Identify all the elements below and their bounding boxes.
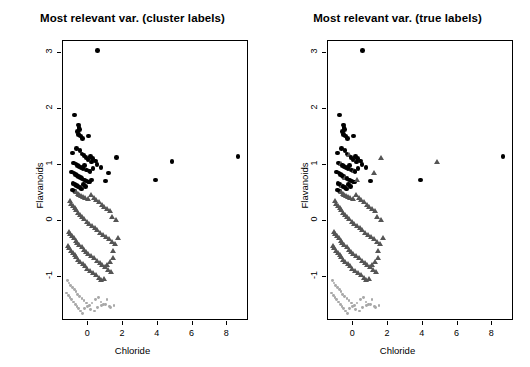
data-point — [70, 151, 75, 156]
data-point — [110, 248, 116, 253]
x-tick-mark — [226, 321, 227, 325]
y-tick-label: -1 — [44, 268, 54, 282]
y-tick-label: 3 — [44, 44, 54, 58]
data-point — [375, 248, 381, 253]
data-point — [96, 306, 99, 309]
data-point — [371, 298, 374, 301]
x-tick-mark — [491, 321, 492, 325]
data-point — [113, 217, 119, 222]
data-point — [93, 310, 96, 313]
x-tick-label: 0 — [79, 328, 95, 338]
data-point — [99, 165, 104, 170]
data-point — [380, 235, 386, 240]
x-tick-mark — [87, 321, 88, 325]
y-tick-mark — [322, 164, 326, 165]
data-point — [368, 179, 373, 184]
data-point — [418, 178, 423, 183]
data-point — [112, 241, 118, 246]
x-tick-label: 0 — [344, 328, 360, 338]
data-point — [353, 169, 358, 174]
data-point — [88, 169, 93, 174]
y-tick-mark — [57, 276, 61, 277]
panel-true-labels: Most relevant var. (true labels) 02468-1… — [265, 0, 530, 367]
data-point — [94, 298, 97, 301]
data-point — [371, 170, 377, 175]
scatter-figure: Most relevant var. (cluster labels) 0246… — [0, 0, 530, 367]
data-point — [83, 184, 88, 189]
data-point — [345, 136, 350, 141]
data-point — [351, 134, 356, 139]
data-point — [113, 304, 116, 307]
data-point — [362, 296, 365, 299]
data-point — [377, 241, 383, 246]
x-tick-label: 2 — [114, 328, 130, 338]
data-point — [89, 160, 94, 165]
data-point — [335, 151, 340, 156]
data-point — [378, 217, 384, 222]
data-point — [348, 184, 353, 189]
data-point — [347, 163, 352, 168]
y-tick-mark — [322, 52, 326, 53]
x-tick-mark — [422, 321, 423, 325]
data-point — [108, 269, 114, 274]
panel-title-cluster: Most relevant var. (cluster labels) — [0, 12, 265, 24]
y-tick-label: 1 — [309, 156, 319, 170]
data-point — [359, 298, 362, 301]
y-tick-mark — [57, 52, 61, 53]
data-point — [378, 155, 384, 160]
y-tick-mark — [57, 220, 61, 221]
data-point — [369, 303, 372, 306]
data-point — [366, 276, 372, 281]
data-point — [106, 171, 111, 176]
panel-cluster-labels: Most relevant var. (cluster labels) 0246… — [0, 0, 265, 367]
data-point — [114, 155, 119, 160]
data-point — [104, 303, 107, 306]
data-point — [372, 208, 378, 213]
x-tick-label: 2 — [379, 328, 395, 338]
data-point — [107, 208, 113, 213]
y-tick-label: 3 — [309, 44, 319, 58]
data-point — [86, 134, 91, 139]
data-point — [106, 298, 109, 301]
x-axis-title-true: Chloride — [265, 345, 530, 356]
data-point — [82, 163, 87, 168]
data-point — [361, 306, 364, 309]
data-point — [95, 48, 100, 53]
y-tick-mark — [322, 108, 326, 109]
y-tick-label: 1 — [44, 156, 54, 170]
data-point — [170, 159, 175, 164]
data-point — [97, 296, 100, 299]
x-tick-label: 6 — [449, 328, 465, 338]
data-point — [89, 308, 92, 311]
data-point — [358, 310, 361, 313]
x-tick-mark — [192, 321, 193, 325]
y-tick-label: 2 — [309, 100, 319, 114]
data-point — [360, 48, 365, 53]
data-point — [365, 304, 368, 307]
x-tick-label: 8 — [218, 328, 234, 338]
data-point — [153, 178, 158, 183]
data-point — [364, 165, 369, 170]
y-tick-mark — [57, 164, 61, 165]
plot-area-true — [327, 40, 513, 320]
data-point — [374, 306, 377, 309]
y-tick-label: 2 — [44, 100, 54, 114]
data-point — [351, 305, 354, 308]
data-point — [89, 178, 94, 183]
data-point — [109, 306, 112, 309]
data-point — [115, 235, 121, 240]
x-tick-label: 4 — [149, 328, 165, 338]
x-axis-title-cluster: Chloride — [0, 345, 265, 356]
data-point — [337, 113, 342, 118]
data-point — [354, 160, 359, 165]
x-tick-label: 4 — [414, 328, 430, 338]
data-point — [72, 113, 77, 118]
data-point — [378, 304, 381, 307]
x-tick-label: 8 — [483, 328, 499, 338]
x-tick-label: 6 — [184, 328, 200, 338]
y-tick-mark — [322, 276, 326, 277]
y-tick-label: 0 — [44, 212, 54, 226]
x-tick-mark — [157, 321, 158, 325]
data-point — [354, 308, 357, 311]
data-point — [236, 154, 241, 159]
